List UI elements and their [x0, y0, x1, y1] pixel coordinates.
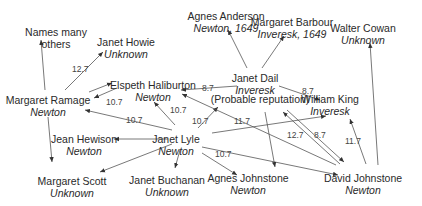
- node-name: David Johnstone: [324, 172, 402, 184]
- node-names-many: Names manyothers: [25, 26, 87, 50]
- edge-janet-dail-to-margaret-barbour: [262, 36, 284, 68]
- edge-weight-label: 12.7: [287, 130, 304, 140]
- node-probable-reputation: (Probable reputation): [211, 93, 310, 105]
- node-location: Unknown: [330, 34, 396, 46]
- edge-weight-label: 11.7: [234, 116, 250, 126]
- node-william-king: William KingInveresk: [301, 93, 359, 117]
- node-location: Unknown: [97, 48, 155, 60]
- node-location: others: [25, 38, 87, 50]
- edge-probable-reputation-to-agnes-johnstone: [265, 112, 275, 167]
- node-name: Walter Cowan: [330, 22, 396, 34]
- node-name: Janet Dail: [232, 72, 279, 84]
- node-name: Margaret Ramage: [6, 94, 91, 106]
- node-location: Unknown: [38, 187, 107, 199]
- node-location: Newton: [51, 145, 117, 157]
- node-name: Margaret Scott: [38, 175, 107, 187]
- edge-janet-dail-to-agnes-anderson: [228, 30, 247, 68]
- edge-weight-label: 11.7: [345, 136, 361, 146]
- node-location: Unknown: [129, 186, 205, 198]
- node-name: Janet Lyle: [152, 133, 199, 145]
- node-margaret-ramage: Margaret RamageNewton: [6, 94, 91, 118]
- node-name: (Probable reputation): [211, 93, 310, 105]
- node-agnes-johnstone: Agnes JohnstoneNewton: [207, 172, 288, 196]
- node-david-johnstone: David JohnstoneNewton: [324, 172, 402, 196]
- edge-weight-label: 8.7: [302, 86, 314, 96]
- node-location: Inveresk: [301, 105, 359, 117]
- node-name: Janet Howie: [97, 36, 155, 48]
- edge-weight-label: 10.7: [126, 115, 143, 125]
- node-margaret-scott: Margaret ScottUnknown: [38, 175, 107, 199]
- node-janet-howie: Janet HowieUnknown: [97, 36, 155, 60]
- node-jean-hewison: Jean HewisonNewton: [51, 133, 117, 157]
- edge-weight-label: 10.7: [192, 116, 209, 126]
- node-walter-cowan: Walter CowanUnknown: [330, 22, 396, 46]
- node-name: Janet Buchanan: [129, 174, 205, 186]
- node-margaret-barbour: Margaret BarbourInveresk, 1649: [251, 16, 333, 40]
- node-name: Elspeth Haliburton: [110, 79, 196, 91]
- node-name: Margaret Barbour: [251, 16, 333, 28]
- node-location: Newton: [6, 106, 91, 118]
- node-location: Newton: [152, 145, 199, 157]
- node-name: Jean Hewison: [51, 133, 117, 145]
- edge-weight-label: 10.7: [215, 149, 232, 159]
- node-location: Inveresk, 1649: [251, 28, 333, 40]
- edge-weight-label: 8.7: [202, 83, 214, 93]
- edge-weight-label: 10.7: [170, 105, 187, 115]
- edge-margaret-ramage-to-elspeth-haliburton: [89, 83, 112, 92]
- node-location: Newton: [207, 184, 288, 196]
- edge-weight-label: 12.7: [72, 64, 89, 74]
- edge-david-johnstone-to-walter-cowan: [370, 43, 378, 165]
- edge-weight-label: 8.7: [314, 130, 326, 140]
- node-location: Newton: [324, 184, 402, 196]
- node-janet-buchanan: Janet BuchananUnknown: [129, 174, 205, 198]
- node-name: Agnes Johnstone: [207, 172, 288, 184]
- edge-weight-label: 10.7: [106, 97, 123, 107]
- node-janet-lyle: Janet LyleNewton: [152, 133, 199, 157]
- node-name: Names many: [25, 26, 87, 38]
